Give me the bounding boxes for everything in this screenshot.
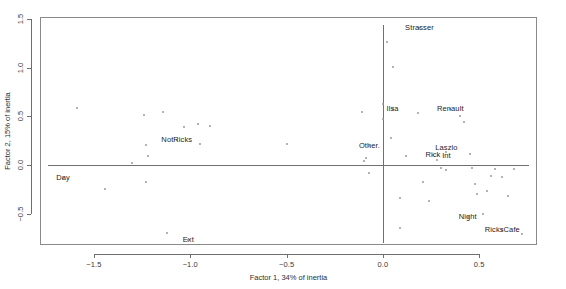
data-point [392,66,394,68]
point-label: Laszlo Int [435,145,457,161]
point-label: Strasser [405,24,434,32]
x-axis-tick [190,254,191,258]
data-point [399,227,401,229]
data-point [521,233,523,235]
y-axis-tick [27,165,31,166]
data-point [361,111,363,113]
y-axis-tick-label: 1.5 [16,14,25,25]
data-point [445,169,447,171]
data-point [199,143,201,145]
data-point [147,155,149,157]
y-axis-tick-label: −0.5 [16,206,25,221]
data-point [183,126,185,128]
x-axis-tick [479,254,480,258]
point-label: Day [56,174,70,182]
point-label: Ilsa [386,105,398,113]
data-point [145,144,147,146]
y-axis-line [31,19,32,214]
data-point [145,181,147,183]
data-point [390,137,392,139]
data-point [513,168,515,170]
point-label: Ext [183,236,194,244]
x-axis-tick-label: −1.0 [183,260,198,269]
y-axis-tick-label: 0.5 [16,111,25,122]
x-axis-tick-label: 0.0 [378,260,389,269]
y-axis-tick-label: 1.0 [16,62,25,73]
data-point [365,157,367,159]
y-axis-tick [27,116,31,117]
data-point [482,213,484,215]
data-point [363,160,365,162]
data-point [440,167,442,169]
data-point [209,125,211,127]
data-point [76,107,78,109]
data-point [131,162,133,164]
data-point [476,193,478,195]
data-point [382,103,384,105]
x-axis-tick-label: 0.5 [474,260,485,269]
x-axis-tick [383,254,384,258]
data-point [417,112,419,114]
plot-frame [40,17,537,245]
data-point [104,188,106,190]
data-point [399,197,401,199]
data-point [494,168,496,170]
vertical-zero-line [383,25,384,243]
y-axis-title: Factor 2, 15% of inertia [3,92,12,170]
data-point [162,111,164,113]
data-point [490,175,492,177]
data-point [368,172,370,174]
data-point [286,143,288,145]
point-label: Renault [437,105,464,113]
data-point [386,41,388,43]
point-label: Night [459,213,477,221]
point-label: RicksCafe [485,226,520,234]
data-point [197,123,199,125]
data-point [474,183,476,185]
data-point [166,232,168,234]
data-point [507,195,509,197]
y-axis-tick [27,214,31,215]
horizontal-zero-line [48,165,529,166]
y-axis-tick [27,68,31,69]
data-point [469,153,471,155]
data-point [428,200,430,202]
x-axis-tick-label: −1.5 [86,260,101,269]
x-axis-tick [94,254,95,258]
data-point [143,114,145,116]
data-point [422,181,424,183]
point-label: Other. [359,142,380,150]
point-label: NotRicks [161,136,192,144]
data-point [405,155,407,157]
y-axis-tick [27,19,31,20]
x-axis-title: Factor 1, 34% of inertia [250,273,328,282]
data-point [382,118,384,120]
data-point [471,167,473,169]
y-axis-tick-label: 0.0 [16,160,25,171]
scatter-plot-figure: StrasserIlsaRenaultOther.RickLaszlo IntN… [0,0,566,289]
x-axis-tick-label: −0.5 [279,260,294,269]
x-axis-tick [287,254,288,258]
data-point [486,190,488,192]
data-point [459,115,461,117]
data-point [463,121,465,123]
data-point [501,176,503,178]
